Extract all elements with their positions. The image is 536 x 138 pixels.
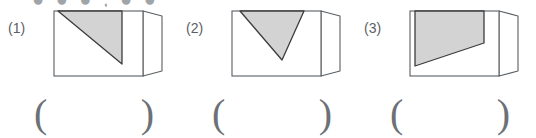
exercise-item-3: (3) ( ) [356,0,534,138]
card-back-flap-2 [321,11,340,76]
figure-2 [218,8,350,86]
folded-card-diagram-1 [40,8,172,86]
answer-paren-close-2: ) [319,92,332,136]
exercise-item-2: (2) ( ) [178,0,356,138]
folded-card-diagram-3 [396,8,528,86]
exercise-number-3: (3) [364,20,381,36]
answer-blank-2[interactable]: ( ) [190,92,348,136]
answer-paren-open-1: ( [34,92,47,136]
exercise-number-2: (2) [186,20,203,36]
answer-paren-open-2: ( [212,92,225,136]
figure-3 [396,8,528,86]
answer-paren-close-1: ) [141,92,154,136]
card-back-flap-3 [499,11,518,76]
answer-paren-close-3: ) [497,92,510,136]
card-back-flap-1 [143,11,162,76]
folded-card-diagram-2 [218,8,350,86]
figure-1 [40,8,172,86]
answer-blank-1[interactable]: ( ) [12,92,170,136]
answer-blank-3[interactable]: ( ) [368,92,526,136]
answer-paren-open-3: ( [390,92,403,136]
exercise-number-1: (1) [8,20,25,36]
exercise-item-1: (1) ( ) [0,0,178,138]
